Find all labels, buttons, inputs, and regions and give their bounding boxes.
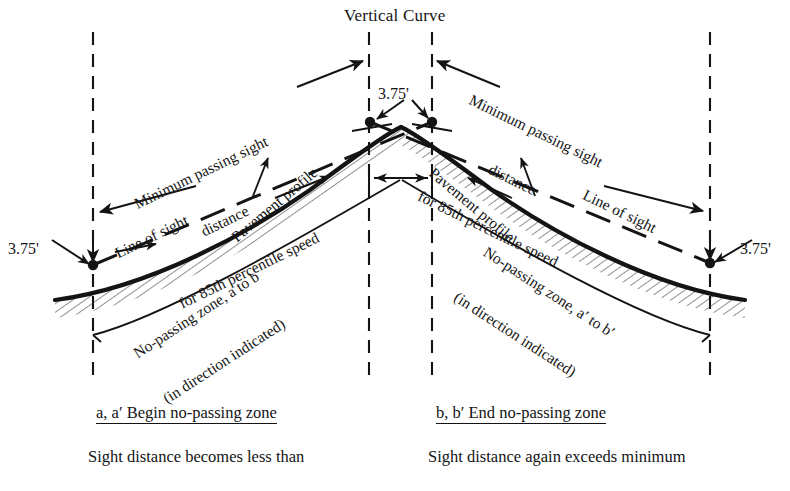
eye-height-arrow-a-prime-leader bbox=[412, 100, 428, 118]
eye-height-leader-a bbox=[52, 240, 89, 264]
leader-no-passing-right bbox=[702, 335, 710, 342]
eye-height-label-center: 3.75' bbox=[378, 85, 409, 104]
caption-left-heading: a, a′ Begin no-passing zone bbox=[96, 403, 277, 424]
caption-left-line1: Sight distance becomes less than bbox=[88, 447, 304, 466]
caption-right-heading: b, b′ End no-passing zone bbox=[436, 403, 606, 424]
caption-right: b, b′ End no-passing zone Sight distance… bbox=[428, 384, 686, 486]
page-title: Vertical Curve bbox=[344, 6, 445, 26]
eye-height-label-left: 3.75' bbox=[8, 240, 39, 259]
dimension-left-upper-arm bbox=[297, 61, 363, 87]
eye-point-a-prime bbox=[427, 117, 437, 127]
leader-no-passing-left bbox=[93, 335, 101, 342]
eye-point-b bbox=[365, 117, 375, 127]
caption-right-line1: Sight distance again exceeds minimum bbox=[428, 447, 686, 466]
caption-left: a, a′ Begin no-passing zone Sight distan… bbox=[88, 384, 304, 491]
eye-height-label-right: 3.75' bbox=[740, 240, 771, 259]
